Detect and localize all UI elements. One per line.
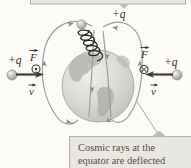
top-charge-label: +q bbox=[112, 8, 126, 21]
right-charge-label: +q bbox=[164, 56, 178, 69]
left-force-label: F bbox=[29, 51, 37, 63]
left-velocity-label: v bbox=[29, 85, 34, 97]
caption-line-2: equator are deflected bbox=[78, 155, 166, 166]
figure-canvas: +q +q F v +q F v bbox=[0, 0, 191, 168]
top-callout-box bbox=[31, 0, 186, 4]
out-of-page-dot-icon bbox=[35, 68, 38, 71]
right-force-label: F bbox=[140, 48, 148, 60]
left-charge-label: +q bbox=[8, 54, 22, 67]
right-charge-sphere bbox=[172, 70, 182, 80]
top-charge-sphere bbox=[77, 20, 86, 29]
earth-magnetic-field-figure: +q +q F v +q F v bbox=[0, 0, 191, 168]
caption-line-1: Cosmic rays at the bbox=[78, 142, 155, 153]
right-velocity-label: v bbox=[151, 85, 156, 97]
left-charge-sphere bbox=[7, 70, 17, 80]
